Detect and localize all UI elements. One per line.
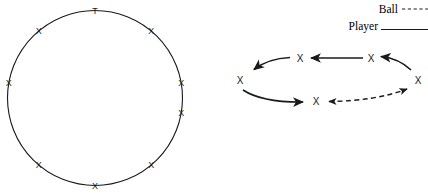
player-arrow-topleft-to-left [254,58,290,70]
circle-marker-x-5: X [148,160,154,170]
circle-marker-x-8: X [148,26,154,36]
ellipse-marker-x-top-right: X [368,53,375,64]
ellipse-marker-x-right: X [415,75,422,86]
diagram-canvas: T X X X X X X X X Ball Player [0,0,428,196]
legend-label-player: Player [349,20,379,33]
ball-arrow-bottom-to-right [329,89,407,102]
circle-marker-x-7: X [178,78,184,88]
ellipse-marker-x-bottom: X [313,96,320,107]
legend: Ball Player [349,3,428,33]
circle-marker-x-3: X [36,160,42,170]
circle-marker-x-6: X [178,108,184,118]
circle-marker-x-2: X [6,78,12,88]
player-arrow-left-to-bottom [243,90,303,102]
ellipse-marker-x-top-left: X [297,53,304,64]
circle-path [8,11,183,186]
formation-diagram-svg: T X X X X X X X X Ball Player [0,0,428,196]
ellipse-marker-x-left: X [237,75,244,86]
player-arrow-right-to-topright [381,57,411,71]
legend-label-ball: Ball [379,3,398,15]
circle-marker-t: T [92,6,98,16]
ellipse-rotation-panel: X X X X X [237,53,422,107]
circle-formation-panel: T X X X X X X X X [6,6,184,191]
circle-marker-x-1: X [36,26,42,36]
circle-marker-x-4: X [92,181,98,191]
